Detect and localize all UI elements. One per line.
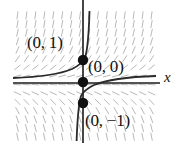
point-0-0 (78, 77, 88, 87)
point-label-0-0: (0, 0) (88, 58, 124, 75)
x-axis-label: x (164, 70, 171, 85)
marked-points (78, 55, 88, 108)
slope-field-figure: (0, 1) (0, 0) (0, −1) x (0, 0, 178, 143)
point-label-0-minus1: (0, −1) (85, 112, 130, 129)
point-0-minus1 (78, 98, 88, 108)
point-0-1 (78, 55, 88, 65)
point-label-0-1: (0, 1) (27, 34, 63, 51)
